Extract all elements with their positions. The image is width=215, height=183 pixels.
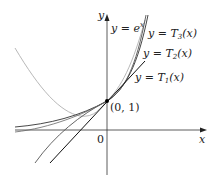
origin-label: 0: [97, 134, 104, 145]
y-axis-label: y: [98, 10, 104, 21]
label-t1: y = T1(x): [135, 72, 184, 85]
label-t3: y = T3(x): [148, 28, 197, 41]
taylor-polynomial-chart: y x 0 (0, 1) y = ex y = T3(x) y = T2(x) …: [0, 0, 215, 183]
label-t2: y = T2(x): [143, 48, 192, 61]
x-axis-arrow-icon: [200, 128, 207, 133]
label-exp: y = ex: [111, 22, 144, 34]
series-t3-curve: [35, 15, 146, 163]
y-axis-arrow-icon: [105, 14, 110, 21]
point-label: (0, 1): [110, 102, 140, 113]
tangent-point: [105, 99, 109, 103]
x-axis-label: x: [199, 134, 205, 145]
